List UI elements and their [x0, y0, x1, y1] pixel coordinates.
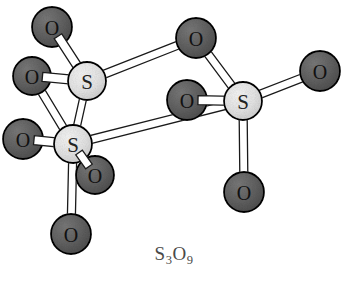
formula-symbol: O	[172, 243, 186, 264]
bond-S1-O3	[95, 38, 187, 81]
atom-o-O8: O	[224, 172, 264, 212]
molecule-svg: OOOOSOOSSOOO	[0, 0, 348, 282]
atom-s-S1: S	[68, 62, 106, 100]
chemical-formula: S3O9	[0, 243, 348, 268]
bond-layer: OOOOSOOSSOOO	[3, 7, 340, 254]
atom-s-S3: S	[224, 82, 262, 120]
atom-o-O3: O	[176, 18, 216, 58]
bond-S2-S3	[82, 100, 234, 146]
formula-subscript: 9	[187, 253, 194, 267]
bond-S3-O8	[239, 111, 248, 181]
bond-S2-O9	[67, 154, 77, 223]
atom-o-O6: O	[300, 51, 340, 91]
formula-symbol: S	[155, 243, 166, 264]
molecule-diagram: OOOOSOOSSOOO S3O9	[0, 0, 348, 282]
